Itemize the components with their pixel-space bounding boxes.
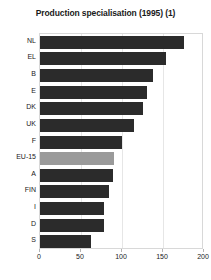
x-tick — [162, 249, 163, 252]
bar-el — [40, 52, 166, 65]
x-tick — [39, 249, 40, 252]
x-axis-label-0: 0 — [37, 253, 41, 260]
y-axis-label-d: D — [0, 220, 36, 227]
bar-eu-15 — [40, 152, 114, 165]
y-axis-label-e: E — [0, 87, 36, 94]
x-axis-label-200: 200 — [197, 253, 209, 260]
y-axis-label-i: I — [0, 203, 36, 210]
x-tick — [80, 249, 81, 252]
x-tick — [203, 249, 204, 252]
y-axis-label-eu-15: EU-15 — [0, 153, 36, 160]
x-tick — [121, 249, 122, 252]
x-axis-tick-labels: 050100150200 — [0, 253, 211, 265]
bar-nl — [40, 36, 184, 49]
y-axis-label-f: F — [0, 137, 36, 144]
bar-i — [40, 202, 104, 215]
x-axis-label-50: 50 — [76, 253, 84, 260]
y-axis-label-b: B — [0, 70, 36, 77]
bar-dk — [40, 102, 143, 115]
y-axis-label-s: S — [0, 236, 36, 243]
bar-a — [40, 169, 113, 182]
bar-chart: Production specialisation (1995) (1) NLE… — [0, 0, 211, 280]
plot-area — [39, 33, 203, 249]
y-axis-label-fin: FIN — [0, 186, 36, 193]
bars-layer — [40, 34, 202, 248]
bar-b — [40, 69, 153, 82]
chart-title: Production specialisation (1995) (1) — [0, 8, 211, 18]
y-axis-label-dk: DK — [0, 103, 36, 110]
bar-d — [40, 219, 104, 232]
bar-e — [40, 86, 147, 99]
x-axis-label-100: 100 — [115, 253, 127, 260]
y-axis-label-el: EL — [0, 53, 36, 60]
bar-f — [40, 136, 122, 149]
y-axis-category-labels: NLELBEDKUKFEU-15AFINIDS — [0, 33, 36, 249]
bar-fin — [40, 185, 109, 198]
bar-s — [40, 235, 91, 248]
y-axis-label-uk: UK — [0, 120, 36, 127]
y-axis-label-nl: NL — [0, 37, 36, 44]
x-axis-label-150: 150 — [156, 253, 168, 260]
bar-uk — [40, 119, 134, 132]
y-axis-label-a: A — [0, 170, 36, 177]
